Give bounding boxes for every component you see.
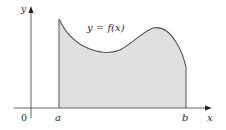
x-axis-label: x (207, 112, 213, 123)
y-axis-arrow-icon (29, 6, 34, 13)
area-under-curve-figure: y y = f(x) 0 a b x (0, 0, 226, 130)
curve-label: y = f(x) (86, 22, 125, 33)
y-axis-label: y (20, 4, 27, 14)
bound-b-label: b (182, 112, 188, 123)
bound-a-label: a (55, 112, 61, 123)
x-axis-arrow-icon (205, 106, 212, 111)
origin-label: 0 (21, 112, 27, 123)
